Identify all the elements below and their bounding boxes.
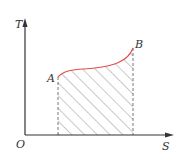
y-axis-label: T bbox=[15, 18, 24, 31]
point-a-label: A bbox=[46, 72, 55, 85]
point-b-label: B bbox=[134, 38, 143, 51]
ts-diagram: T O S A B bbox=[0, 0, 184, 161]
hatched-area bbox=[50, 40, 140, 140]
y-axis-arrow-icon bbox=[23, 18, 28, 27]
x-axis-label: S bbox=[162, 140, 170, 153]
x-axis-arrow-icon bbox=[165, 133, 174, 138]
origin-label: O bbox=[16, 138, 25, 151]
